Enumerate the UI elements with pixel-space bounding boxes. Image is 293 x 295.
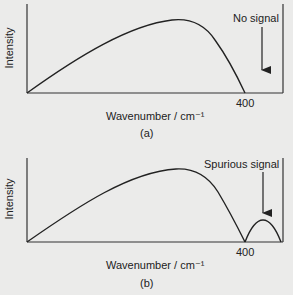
panel-a-annotation: No signal xyxy=(233,12,279,24)
panel-a-xlabel: Wavenumber / cm⁻¹ xyxy=(106,110,205,123)
panel-b-plot xyxy=(27,158,283,242)
panel-b-xlabel: Wavenumber / cm⁻¹ xyxy=(106,259,205,272)
panel-b-annotation: Spurious signal xyxy=(204,158,279,170)
panel-b-curve xyxy=(27,169,245,242)
panel-a-caption: (a) xyxy=(140,127,153,139)
panel-a-curve xyxy=(27,20,245,93)
panel-b-spurious-bump xyxy=(245,220,281,242)
panel-a-tick-400: 400 xyxy=(236,97,254,109)
panel-b-ylabel: Intensity xyxy=(3,179,15,220)
panel-a-ylabel: Intensity xyxy=(3,28,15,69)
panel-b-tick-400: 400 xyxy=(236,246,254,258)
panel-b-caption: (b) xyxy=(140,277,153,289)
